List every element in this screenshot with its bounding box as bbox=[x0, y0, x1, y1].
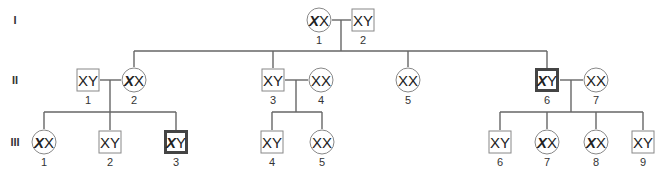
female-circle-II-5: XX bbox=[396, 68, 421, 93]
individual-number: 2 bbox=[107, 156, 113, 168]
allele-1: X bbox=[633, 135, 643, 150]
individual-number: 8 bbox=[593, 156, 599, 168]
individual-number: 6 bbox=[497, 156, 503, 168]
female-circle-II-7: XX bbox=[584, 68, 609, 93]
male-square-I-2: XY bbox=[352, 9, 375, 32]
individual-number: 3 bbox=[173, 156, 179, 168]
male-square-III-6: XY bbox=[489, 131, 512, 154]
allele-2: Y bbox=[273, 73, 283, 88]
allele-2: X bbox=[596, 135, 606, 150]
allele-2: Y bbox=[110, 135, 120, 150]
individual-number: 1 bbox=[316, 34, 322, 46]
male-square-III-2: XY bbox=[99, 131, 122, 154]
allele-2: X bbox=[596, 73, 606, 88]
allele-1: X bbox=[124, 73, 134, 88]
female-circle-III-1: XX bbox=[32, 130, 57, 155]
male-square-III-9: XY bbox=[632, 131, 655, 154]
individual-number: 1 bbox=[85, 94, 91, 106]
individual-number: 4 bbox=[269, 156, 275, 168]
allele-2: X bbox=[321, 73, 331, 88]
allele-1: X bbox=[353, 13, 363, 28]
individual-number: 2 bbox=[131, 94, 137, 106]
allele-1: X bbox=[34, 135, 44, 150]
allele-2: Y bbox=[547, 73, 557, 88]
individual-number: 7 bbox=[593, 94, 599, 106]
allele-2: Y bbox=[363, 13, 373, 28]
allele-2: Y bbox=[643, 135, 653, 150]
female-circle-III-7: XX bbox=[535, 130, 560, 155]
allele-1: X bbox=[311, 73, 321, 88]
male-square-II-6: XY bbox=[535, 68, 559, 92]
female-circle-II-2: XX bbox=[122, 68, 147, 93]
individual-number: 5 bbox=[319, 156, 325, 168]
individual-number: 9 bbox=[640, 156, 646, 168]
allele-1: X bbox=[309, 13, 319, 28]
allele-2: X bbox=[319, 13, 329, 28]
allele-2: Y bbox=[500, 135, 510, 150]
allele-1: X bbox=[586, 73, 596, 88]
allele-2: X bbox=[44, 135, 54, 150]
male-square-III-4: XY bbox=[261, 131, 284, 154]
female-circle-I-1: XX bbox=[307, 8, 332, 33]
individual-number: 3 bbox=[270, 94, 276, 106]
female-circle-III-5: XX bbox=[310, 130, 335, 155]
female-circle-III-8: XX bbox=[584, 130, 609, 155]
allele-1: X bbox=[490, 135, 500, 150]
allele-2: X bbox=[134, 73, 144, 88]
male-square-II-3: XY bbox=[262, 69, 285, 92]
allele-2: X bbox=[408, 73, 418, 88]
allele-2: Y bbox=[176, 135, 186, 150]
allele-1: X bbox=[100, 135, 110, 150]
individual-number: 4 bbox=[318, 94, 324, 106]
generation-label: II bbox=[8, 74, 22, 86]
individual-number: 7 bbox=[544, 156, 550, 168]
allele-1: X bbox=[78, 73, 88, 88]
allele-2: Y bbox=[88, 73, 98, 88]
allele-1: X bbox=[262, 135, 272, 150]
individual-number: 2 bbox=[360, 34, 366, 46]
generation-label: III bbox=[8, 136, 22, 148]
allele-2: X bbox=[322, 135, 332, 150]
allele-1: X bbox=[586, 135, 596, 150]
male-square-III-3: XY bbox=[164, 130, 188, 154]
allele-2: Y bbox=[272, 135, 282, 150]
allele-1: X bbox=[398, 73, 408, 88]
allele-1: X bbox=[312, 135, 322, 150]
individual-number: 6 bbox=[544, 94, 550, 106]
allele-1: X bbox=[537, 135, 547, 150]
allele-1: X bbox=[263, 73, 273, 88]
individual-number: 5 bbox=[405, 94, 411, 106]
individual-number: 1 bbox=[41, 156, 47, 168]
generation-label: I bbox=[8, 14, 22, 26]
male-square-II-1: XY bbox=[77, 69, 100, 92]
allele-2: X bbox=[547, 135, 557, 150]
allele-1: X bbox=[537, 73, 547, 88]
allele-1: X bbox=[166, 135, 176, 150]
female-circle-II-4: XX bbox=[309, 68, 334, 93]
